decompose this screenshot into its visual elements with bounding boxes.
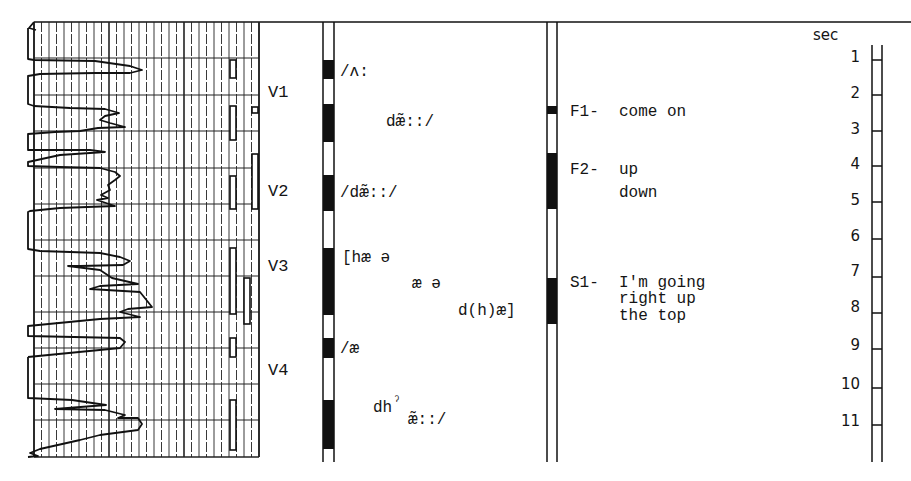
pitch-grid <box>34 22 259 457</box>
tick-4: 4 <box>830 155 860 173</box>
f2-line-2: down <box>619 184 657 202</box>
s1-line-2: right up <box>619 290 696 308</box>
transcription-4: [hæ ə <box>342 249 390 267</box>
transcription-8b: ˀ <box>393 393 401 411</box>
transcription-2: dæ̃::/ <box>386 113 434 131</box>
tick-7: 7 <box>830 262 860 280</box>
time-axis-label: sec <box>813 26 838 44</box>
label-v3: V3 <box>268 258 288 276</box>
tick-5: 5 <box>830 191 860 209</box>
bar-v3b <box>244 278 250 324</box>
tick-11: 11 <box>830 412 860 430</box>
transcription-7: /æ <box>340 340 359 358</box>
label-v2: V2 <box>268 183 288 201</box>
transcription-8a: dh <box>373 399 392 417</box>
bar-v1c <box>252 107 258 113</box>
tick-10: 10 <box>830 375 860 393</box>
bar-v2b <box>230 176 236 209</box>
f1-speaker: F1- <box>570 103 599 121</box>
bar-v4b <box>230 400 236 450</box>
intonation-figure: V1 V2 V3 V4 /ʌ: dæ̃::/ /dæ̃::/ [hæ ə æ ə… <box>0 0 911 481</box>
tick-6: 6 <box>830 227 860 245</box>
tick-1: 1 <box>830 48 860 66</box>
transcription-1: /ʌ: <box>340 63 369 81</box>
transcription-5: æ ə <box>412 275 441 293</box>
transcription-3: /dæ̃::/ <box>340 184 398 202</box>
bar-v4a <box>230 338 236 357</box>
f2-line-1: up <box>619 161 638 179</box>
tick-3: 3 <box>830 120 860 138</box>
tick-9: 9 <box>830 336 860 354</box>
label-v4: V4 <box>268 362 288 380</box>
tick-2: 2 <box>830 84 860 102</box>
tick-8: 8 <box>830 298 860 316</box>
f2-speaker: F2- <box>570 161 599 179</box>
label-v1: V1 <box>268 84 288 102</box>
adult-voicing-bar <box>547 22 557 462</box>
s1-speaker: S1- <box>570 274 599 292</box>
bar-v2a <box>252 154 258 209</box>
bar-v3a <box>230 248 236 314</box>
child-voicing-bar <box>323 22 334 462</box>
figure-graphics <box>0 0 911 481</box>
s1-line-3: the top <box>619 307 686 325</box>
time-scale <box>872 45 882 462</box>
f1-line-1: come on <box>619 103 686 121</box>
transcription-6: d(h)æ] <box>458 302 516 320</box>
bar-v1b <box>230 106 236 140</box>
bar-v1a <box>230 60 236 78</box>
transcription-8c: æ̃::/ <box>408 411 446 429</box>
